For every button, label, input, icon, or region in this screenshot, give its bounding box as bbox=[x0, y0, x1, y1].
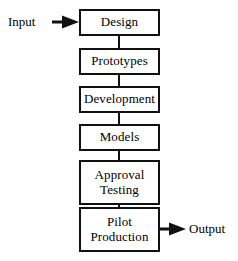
node-development-label: Development bbox=[84, 92, 155, 106]
node-models-label: Models bbox=[100, 130, 140, 144]
input-arrow-icon bbox=[52, 15, 80, 29]
node-pilot-production-label-line2: Production bbox=[90, 230, 148, 244]
node-pilot-production-label-line1: Pilot bbox=[107, 215, 132, 229]
flowchart-diagram: Input Design Prototypes Development Mode… bbox=[0, 0, 238, 261]
node-models[interactable]: Models bbox=[79, 124, 160, 151]
node-approval-testing[interactable]: Approval Testing bbox=[79, 160, 160, 205]
node-approval-testing-label-line2: Testing bbox=[100, 183, 139, 197]
node-prototypes-label: Prototypes bbox=[91, 54, 148, 68]
output-label: Output bbox=[189, 221, 225, 237]
input-label: Input bbox=[8, 14, 35, 30]
node-design-label: Design bbox=[101, 15, 138, 29]
connector-design-prototypes bbox=[118, 36, 120, 48]
node-design[interactable]: Design bbox=[79, 9, 160, 36]
connector-prototypes-development bbox=[118, 75, 120, 86]
output-arrow-icon bbox=[159, 222, 187, 236]
connector-models-approval bbox=[118, 151, 120, 160]
node-approval-testing-label-line1: Approval bbox=[95, 168, 145, 182]
node-prototypes[interactable]: Prototypes bbox=[79, 48, 160, 75]
connector-development-models bbox=[118, 113, 120, 124]
node-development[interactable]: Development bbox=[79, 86, 160, 113]
node-pilot-production[interactable]: Pilot Production bbox=[79, 207, 160, 252]
